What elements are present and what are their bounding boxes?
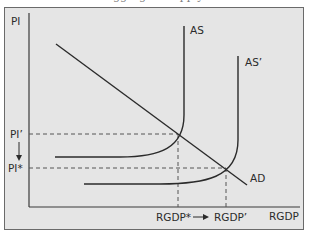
ad-curve [56, 44, 247, 185]
y-axis-label: PI [11, 15, 20, 27]
pi-star-label: PI* [8, 162, 23, 174]
x-axis-label: RGDP [269, 210, 299, 222]
as-ad-diagram: PI AS AS’ AD PI’ PI* RGDP* RGDP’ RGDP [0, 0, 310, 237]
as-prime-curve [84, 56, 238, 184]
as-label: AS [190, 24, 204, 36]
ad-label: AD [250, 172, 265, 184]
arrow-down-icon [16, 155, 22, 161]
as-prime-label: AS’ [245, 56, 262, 68]
rgdp-prime-label: RGDP’ [214, 211, 247, 223]
arrow-right-icon [203, 214, 209, 220]
pi-prime-label: PI’ [10, 128, 23, 140]
rgdp-star-label: RGDP* [156, 211, 191, 223]
